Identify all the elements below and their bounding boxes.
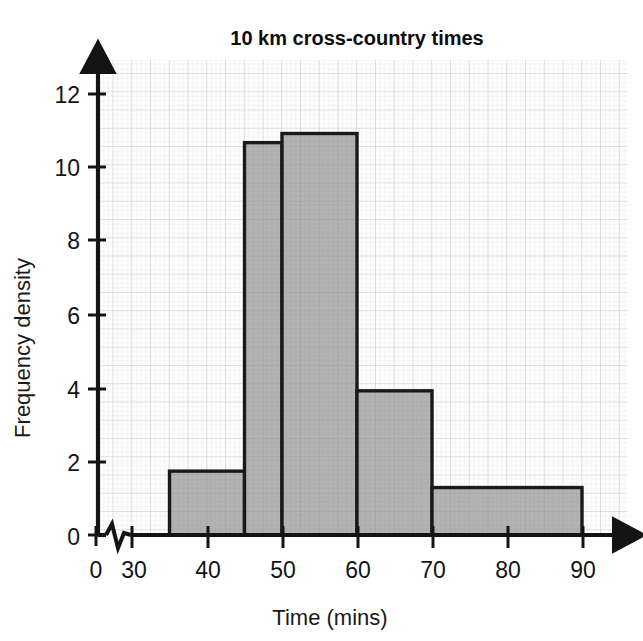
y-tick-label-10: 10 (54, 155, 80, 181)
y-axis-title: Frequency density (10, 258, 35, 438)
y-tick-label-4: 4 (67, 377, 80, 403)
bar-60-70 (357, 391, 432, 535)
x-tick-label-0: 0 (90, 557, 103, 583)
y-tick-label-0: 0 (67, 524, 80, 550)
x-tick-label-70: 70 (420, 557, 446, 583)
y-tick-label-6: 6 (67, 303, 80, 329)
bar-50-60 (282, 134, 357, 536)
histogram-chart: 10 km cross-country times 12 10 8 6 4 2 (0, 0, 643, 641)
bar-35-45 (170, 471, 245, 535)
y-tick-label-8: 8 (67, 228, 80, 254)
bar-45-50 (245, 143, 283, 535)
chart-title: 10 km cross-country times (230, 27, 483, 49)
x-axis-title: Time (mins) (272, 605, 387, 630)
x-tick-label-50: 50 (270, 557, 296, 583)
y-tick-label-2: 2 (67, 450, 80, 476)
x-tick-label-80: 80 (495, 557, 521, 583)
x-tick-label-30: 30 (121, 557, 147, 583)
chart-canvas: 10 km cross-country times 12 10 8 6 4 2 (0, 0, 643, 641)
x-tick-label-90: 90 (570, 557, 596, 583)
x-tick-label-40: 40 (195, 557, 221, 583)
y-tick-label-12: 12 (54, 82, 80, 108)
x-tick-label-60: 60 (345, 557, 371, 583)
